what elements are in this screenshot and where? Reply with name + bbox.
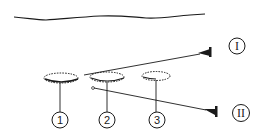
label-I: I (235, 39, 239, 53)
pointer-line-II (94, 88, 206, 110)
pointer-origin-II (92, 87, 95, 90)
pointer-I: I (84, 38, 245, 75)
label-3: 3 (154, 114, 160, 126)
wedge-I (198, 49, 210, 56)
bar-I (209, 47, 212, 57)
wedge-II (204, 109, 216, 115)
element-1: 1 (44, 73, 78, 128)
label-1: 1 (57, 114, 63, 126)
diagram-canvas: 1 2 3 I II (0, 0, 258, 139)
element-2: 2 (90, 72, 124, 128)
bar-II (215, 106, 218, 117)
wavy-surface-line (14, 14, 205, 20)
pointer-II: II (92, 87, 250, 122)
pointer-line-I (84, 54, 200, 75)
label-II: II (237, 106, 245, 120)
label-2: 2 (104, 114, 110, 126)
ellipse-shadow-3 (143, 77, 156, 79)
